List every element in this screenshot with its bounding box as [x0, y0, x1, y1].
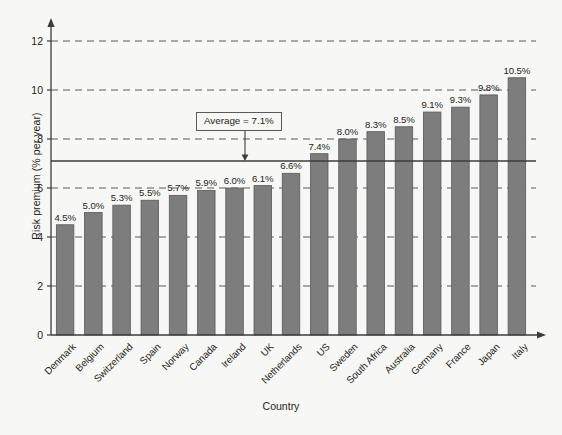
bar-value-label: 6.1% [252, 173, 273, 184]
bar-value-label: 7.4% [309, 141, 330, 152]
bar-value-label: 8.3% [365, 119, 386, 130]
x-axis-arrowhead [537, 331, 546, 338]
bar [254, 186, 272, 335]
bar [56, 225, 74, 335]
bar [198, 190, 216, 335]
bar-value-label: 5.9% [196, 177, 217, 188]
y-axis-tick-label: 0 [21, 329, 43, 341]
bar-value-label: 4.5% [54, 212, 75, 223]
bar-value-label: 5.0% [83, 200, 104, 211]
bar [141, 200, 159, 335]
y-axis-tick-label: 2 [21, 280, 43, 292]
bar-value-label: 9.8% [478, 82, 499, 93]
bar-value-label: 5.7% [167, 182, 188, 193]
bar [282, 173, 300, 335]
bars-group [56, 78, 525, 335]
y-axis-arrowhead [47, 18, 54, 27]
bar-value-label: 9.1% [421, 99, 442, 110]
bar [339, 139, 357, 335]
bar-value-label: 5.5% [139, 187, 160, 198]
bar [452, 107, 470, 335]
bar [367, 132, 385, 335]
bar-value-label: 8.0% [337, 126, 358, 137]
bar [480, 95, 498, 335]
bar-value-label: 5.3% [111, 192, 132, 203]
bar-value-label: 9.3% [450, 94, 471, 105]
x-axis-title: Country [0, 400, 562, 412]
bar [423, 112, 441, 335]
bar-value-label: 8.5% [393, 114, 414, 125]
y-axis-title: Risk premium (% per year) [30, 76, 42, 276]
bar [226, 188, 244, 335]
bar-value-label: 6.6% [280, 160, 301, 171]
y-axis-tick-label: 12 [21, 35, 43, 47]
bar-value-label: 6.0% [224, 175, 245, 186]
bar [85, 213, 103, 336]
bar [169, 195, 187, 335]
average-arrow-head [242, 155, 249, 162]
bar [113, 205, 131, 335]
risk-premium-bar-chart: 024681012 4.5%5.0%5.3%5.5%5.7%5.9%6.0%6.… [0, 0, 562, 435]
bar [508, 78, 526, 335]
average-annotation-box: Average = 7.1% [196, 112, 282, 131]
bar [395, 127, 413, 335]
bar-value-label: 10.5% [504, 65, 531, 76]
bar [310, 154, 328, 335]
